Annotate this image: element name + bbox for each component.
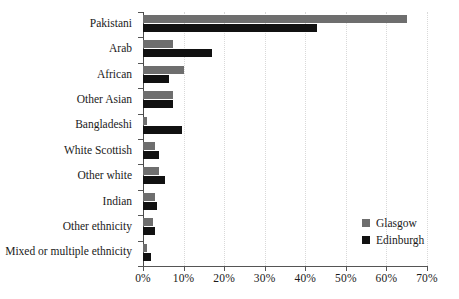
category-label: Other white <box>77 169 132 181</box>
category-label: Bangladeshi <box>75 118 132 130</box>
bar-chart-figure: PakistaniArabAfricanOther AsianBanglades… <box>0 0 459 299</box>
bar-glasgow <box>143 193 155 201</box>
x-axis-tick-label: 70% <box>397 272 457 284</box>
category-label: Pakistani <box>90 17 132 29</box>
bar-group <box>143 164 427 189</box>
legend-label: Edinburgh <box>376 234 424 246</box>
x-axis-tick <box>305 266 306 271</box>
y-axis-tick <box>138 215 143 216</box>
bar-edinburgh <box>143 24 317 32</box>
legend-item: Edinburgh <box>362 233 424 247</box>
bar-edinburgh <box>143 49 212 57</box>
bar-edinburgh <box>143 151 159 159</box>
bar-glasgow <box>143 66 184 74</box>
y-axis-tick <box>138 190 143 191</box>
bar-group <box>143 114 427 139</box>
y-axis-tick <box>138 63 143 64</box>
category-label: Indian <box>103 195 132 207</box>
y-axis-tick <box>138 266 143 267</box>
bar-glasgow <box>143 167 159 175</box>
bar-glasgow <box>143 244 147 252</box>
y-axis-tick <box>138 114 143 115</box>
bar-glasgow <box>143 15 407 23</box>
category-label: Other Asian <box>77 93 132 105</box>
bar-edinburgh <box>143 126 182 134</box>
bar-glasgow <box>143 142 155 150</box>
x-axis-line <box>143 266 428 267</box>
bar-edinburgh <box>143 176 165 184</box>
category-label: Other ethnicity <box>63 220 132 232</box>
y-axis-tick <box>138 37 143 38</box>
legend-item: Glasgow <box>362 216 424 230</box>
legend-swatch-icon <box>362 236 370 244</box>
x-axis-tick <box>224 266 225 271</box>
x-axis-tick <box>184 266 185 271</box>
bar-glasgow <box>143 40 173 48</box>
bar-glasgow <box>143 91 173 99</box>
category-label: White Scottish <box>64 144 132 156</box>
bar-group <box>143 63 427 88</box>
bar-glasgow <box>143 218 153 226</box>
y-axis-tick <box>138 241 143 242</box>
bar-edinburgh <box>143 253 151 261</box>
category-axis-labels: PakistaniArabAfricanOther AsianBanglades… <box>0 12 136 266</box>
bar-group <box>143 12 427 37</box>
bar-edinburgh <box>143 75 169 83</box>
y-axis-tick <box>138 139 143 140</box>
bar-glasgow <box>143 117 147 125</box>
x-axis-tick <box>265 266 266 271</box>
y-axis-tick <box>138 88 143 89</box>
category-label: Arab <box>109 42 132 54</box>
bar-edinburgh <box>143 100 173 108</box>
bar-group <box>143 190 427 215</box>
x-axis-tick <box>143 266 144 271</box>
category-label: African <box>97 68 132 80</box>
gridline <box>427 12 428 266</box>
x-axis-tick <box>346 266 347 271</box>
x-axis-tick <box>427 266 428 271</box>
chart-legend: GlasgowEdinburgh <box>362 216 424 250</box>
y-axis-tick <box>138 12 143 13</box>
bar-group <box>143 139 427 164</box>
bar-group <box>143 88 427 113</box>
bar-edinburgh <box>143 202 157 210</box>
legend-label: Glasgow <box>376 217 417 229</box>
legend-swatch-icon <box>362 219 370 227</box>
bar-edinburgh <box>143 227 155 235</box>
category-label: Mixed or multiple ethnicity <box>5 245 132 257</box>
bar-group <box>143 37 427 62</box>
x-axis-tick <box>386 266 387 271</box>
y-axis-tick <box>138 164 143 165</box>
